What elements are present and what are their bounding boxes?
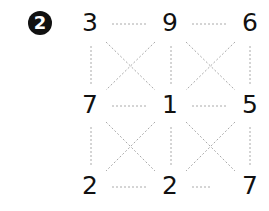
grid-cell-r1c2: 9	[158, 9, 182, 37]
grid-cell-r1c3: 6	[238, 9, 262, 37]
grid-cell-r2c2: 1	[158, 91, 182, 119]
grid-cell-r3c3: 7	[238, 172, 262, 200]
grid-cell-r3c2: 2	[158, 172, 182, 200]
dashed-connector-lines	[0, 0, 269, 211]
grid-cell-r2c3: 5	[238, 91, 262, 119]
grid-cell-r2c1: 7	[78, 91, 102, 119]
grid-cell-r3c1: 2	[78, 172, 102, 200]
grid-cell-r1c1: 3	[78, 9, 102, 37]
